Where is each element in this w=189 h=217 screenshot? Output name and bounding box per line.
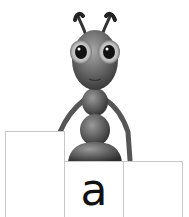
letter-middle: a [65,166,123,214]
letter-box-right[interactable] [123,161,183,217]
eye-left [70,40,92,64]
eye-right [98,40,120,64]
antenna-left [75,14,86,36]
ant-thorax [82,88,108,116]
ant-lower-segment [68,142,122,162]
ant-middle-segment [80,114,110,146]
letter-box-middle[interactable]: a [64,161,124,217]
letter-box-left[interactable] [5,131,65,217]
letter-sound-scene: a [0,0,189,217]
